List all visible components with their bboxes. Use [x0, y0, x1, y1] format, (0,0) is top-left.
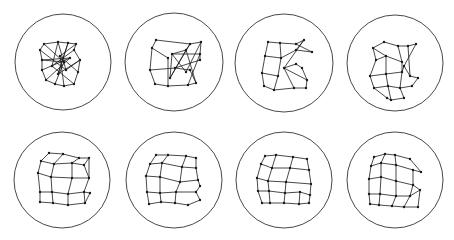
graph-node: [62, 153, 64, 155]
graph-edge: [85, 193, 90, 203]
graph-node: [50, 176, 52, 178]
graph-node: [311, 51, 313, 53]
graph-edge: [269, 191, 285, 193]
graph-node: [167, 85, 169, 87]
graph-edge: [84, 192, 85, 203]
graph-edge: [310, 184, 311, 195]
graph-node: [397, 45, 399, 47]
graph-node: [149, 69, 151, 71]
graph-node: [159, 176, 161, 178]
graph-edge: [280, 43, 296, 44]
graph-node: [200, 41, 202, 43]
layout-panel-8: [347, 132, 443, 228]
graph-node: [41, 69, 43, 71]
graph-edge: [162, 155, 168, 163]
graph-edge: [404, 196, 410, 207]
graph-edge: [257, 178, 258, 191]
graph-node: [380, 162, 382, 164]
layout-panel-6: [126, 132, 222, 228]
graph-edge: [155, 84, 168, 86]
graph-edge: [379, 194, 380, 205]
graph-node: [368, 193, 370, 195]
graph-edge: [162, 163, 182, 167]
graph-edge: [395, 155, 410, 159]
graph-node: [261, 202, 263, 204]
graph-node: [395, 195, 397, 197]
graph-node: [285, 181, 287, 183]
graph-node: [84, 202, 86, 204]
graph-edge: [261, 156, 265, 164]
graph-edge: [146, 164, 150, 176]
graph-nodes: [368, 153, 422, 208]
graph-edge: [286, 168, 290, 182]
graph-edge: [150, 68, 175, 70]
graph-edge: [68, 178, 72, 194]
graph-node: [89, 192, 91, 194]
graph-edge: [150, 163, 162, 164]
graph-edge: [300, 192, 310, 195]
graph-edge: [386, 72, 402, 74]
boundary-circle: [235, 14, 333, 112]
graph-edge: [396, 165, 413, 170]
graph-node: [71, 162, 73, 164]
graph-edge: [373, 42, 384, 48]
graph-node: [261, 72, 263, 74]
graph-node: [306, 79, 308, 81]
boundary-circle: [126, 132, 222, 228]
graph-node: [295, 63, 297, 65]
graph-edge: [398, 46, 402, 62]
graph-node: [83, 164, 85, 166]
graph-edge: [400, 86, 412, 88]
graph-node: [412, 184, 414, 186]
graph-node: [292, 156, 294, 158]
figure-stage: [0, 0, 454, 240]
graph-edge: [293, 157, 307, 159]
graph-edge: [376, 56, 386, 60]
graph-edge: [84, 158, 89, 165]
graph-node: [273, 89, 275, 91]
graph-edge: [68, 192, 84, 194]
graph-edge: [413, 185, 420, 190]
graph-node: [415, 43, 417, 45]
graph-node: [268, 190, 270, 192]
graph-edge: [54, 163, 72, 164]
graph-edge: [388, 86, 400, 88]
graph-edge: [381, 163, 396, 165]
graph-edge: [264, 86, 274, 90]
graph-edge: [51, 177, 52, 192]
graph-node: [63, 85, 65, 87]
graph-edge: [68, 203, 85, 205]
graph-node: [187, 204, 189, 206]
graph-node: [67, 204, 69, 206]
graph-edge: [55, 84, 64, 86]
graph-node: [308, 202, 310, 204]
graph-edge: [410, 159, 421, 172]
graph-edge: [175, 192, 176, 203]
graph-node: [51, 65, 53, 67]
graph-edge: [269, 191, 270, 203]
graph-node: [174, 67, 176, 69]
graph-edge: [180, 167, 182, 182]
graph-edge: [408, 46, 410, 76]
graph-node: [373, 87, 375, 89]
graph-node: [369, 75, 371, 77]
graph-node: [305, 87, 307, 89]
graph-edge: [182, 167, 196, 168]
graph-edge: [147, 192, 149, 204]
graph-edge: [265, 42, 268, 56]
graph-edge: [152, 48, 168, 58]
graph-edge: [190, 42, 201, 44]
graph-edge: [152, 40, 156, 48]
graph-node: [73, 49, 75, 51]
graph-edge: [84, 178, 89, 192]
graph-edge: [274, 76, 278, 90]
graph-edge: [52, 192, 53, 203]
graph-edge: [299, 203, 309, 204]
graph-node: [52, 202, 54, 204]
graph-edge: [370, 60, 376, 76]
graph-edge: [392, 196, 396, 206]
graph-edge: [156, 40, 190, 44]
graph-node: [167, 57, 169, 59]
graph-edge: [160, 193, 161, 202]
graph-edge: [374, 86, 388, 88]
